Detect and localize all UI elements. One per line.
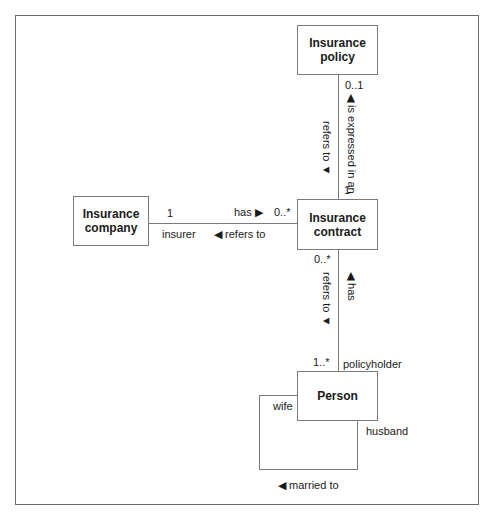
association-label-refers-to-company: ◀ refers to xyxy=(214,228,265,240)
class-person[interactable]: Person xyxy=(297,371,378,421)
class-insurance-contract[interactable]: Insurance contract xyxy=(297,199,378,250)
role-policyholder: policyholder xyxy=(343,358,402,370)
association-label-refers-to-person: refers to ▼ xyxy=(321,272,333,326)
multiplicity-policy: 0..1 xyxy=(345,79,363,91)
class-name: Insurance policy xyxy=(298,36,377,64)
class-insurance-company[interactable]: Insurance company xyxy=(73,196,149,246)
association-line-policy-contract xyxy=(338,75,339,199)
multiplicity-person: 1..* xyxy=(313,356,330,368)
association-label-has: has ▶ xyxy=(234,206,263,218)
class-name: Person xyxy=(317,389,358,403)
role-wife: wife xyxy=(273,400,293,412)
association-line-contract-person xyxy=(338,250,339,371)
class-name: Insurance company xyxy=(83,207,140,235)
association-label-has-person: ◀ has xyxy=(346,272,358,301)
class-insurance-policy[interactable]: Insurance policy xyxy=(297,25,378,75)
association-label-married-to: ◀ married to xyxy=(278,479,339,491)
multiplicity-contract-person: 0..* xyxy=(314,253,331,265)
role-husband: husband xyxy=(366,425,408,437)
association-label-refers-to-policy: refers to ▼ xyxy=(321,121,333,175)
association-label-is-expressed-in: ◀ is expressed in an xyxy=(346,94,358,194)
multiplicity-contract-policy: 1 xyxy=(344,184,350,196)
association-line-company-contract xyxy=(148,223,297,224)
role-insurer: insurer xyxy=(162,228,196,240)
class-name: Insurance contract xyxy=(309,211,366,239)
diagram-frame xyxy=(15,15,479,505)
multiplicity-company: 1 xyxy=(167,207,173,219)
multiplicity-contract-company: 0..* xyxy=(274,206,291,218)
